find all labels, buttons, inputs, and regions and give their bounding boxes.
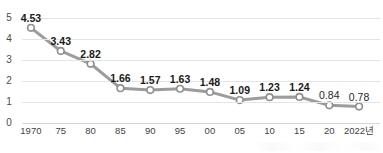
data-point-label: 1.66 [110,73,130,84]
x-axis-tick-label: 20 [324,126,335,136]
x-axis-tick-label: 80 [85,126,96,136]
data-point-marker [57,48,64,55]
x-axis-tick-label: 00 [205,126,216,136]
data-point-marker [326,102,333,109]
data-point-label: 2.82 [80,49,100,60]
data-point-label: 1.09 [230,85,250,96]
data-point-label: 1.63 [170,74,190,85]
x-axis-tick-label: 75 [55,126,66,136]
plot-area [22,18,380,123]
data-point-label: 1.48 [200,77,220,88]
y-axis-tick-label: 4 [0,34,18,44]
x-axis-tick-label: 1970 [20,126,41,136]
x-axis-tick-label: 85 [115,126,126,136]
y-axis-tick-label: 0 [0,118,18,128]
y-axis-tick-label: 3 [0,55,18,65]
x-axis-tick-label: 15 [294,126,305,136]
data-point-label: 1.24 [289,82,309,93]
gridline [22,102,380,103]
gridline [22,39,380,40]
data-point-label: 3.43 [51,36,71,47]
data-point-marker [147,87,154,94]
scan-artifact-band [250,142,383,151]
y-axis-tick-label: 1 [0,97,18,107]
gridline [22,123,380,124]
data-point-label: 0.84 [319,90,339,101]
data-point-marker [117,85,124,92]
data-point-marker [207,89,214,96]
data-point-marker [296,94,303,101]
gridline [22,60,380,61]
x-axis-tick-label: 2022년 [344,126,374,136]
data-point-label: 0.78 [349,92,369,103]
data-point-label: 4.53 [21,13,41,24]
series-line-and-markers [22,18,380,123]
fertility-rate-line-chart: 012345 1970758085909500051015202022년 4.5… [0,0,383,153]
x-axis-tick-label: 95 [175,126,186,136]
data-point-label: 1.57 [140,75,160,86]
y-axis-tick-label: 2 [0,76,18,86]
x-axis-tick-label: 10 [264,126,275,136]
x-axis-tick-label: 05 [234,126,245,136]
data-point-label: 1.23 [259,82,279,93]
data-point-marker [87,60,94,67]
data-point-marker [356,103,363,110]
x-axis-tick-label: 90 [145,126,156,136]
data-point-marker [266,94,273,101]
gridline [22,18,380,19]
data-point-marker [28,25,35,32]
data-point-marker [177,85,184,92]
y-axis-tick-label: 5 [0,13,18,23]
